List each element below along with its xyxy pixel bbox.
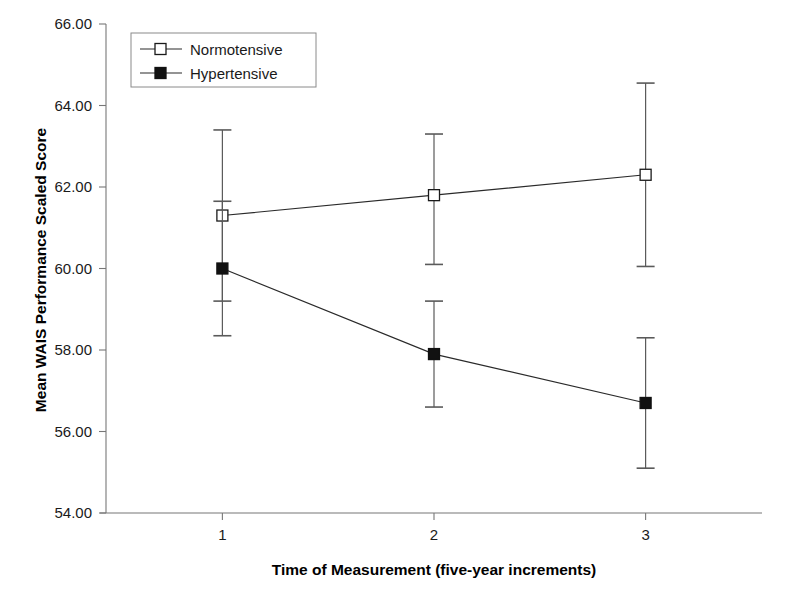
data-point-marker[interactable] [640, 169, 651, 180]
y-tick-label: 54.00 [54, 504, 92, 521]
data-point-marker[interactable] [429, 349, 440, 360]
x-axis-title: Time of Measurement (five-year increment… [272, 561, 596, 578]
y-tick-label: 64.00 [54, 97, 92, 114]
data-point-marker[interactable] [217, 263, 228, 274]
data-point-marker[interactable] [640, 397, 651, 408]
y-tick-label: 60.00 [54, 260, 92, 277]
x-tick-label: 2 [430, 526, 438, 543]
legend-label-normotensive: Normotensive [190, 41, 283, 58]
legend-label-hypertensive: Hypertensive [190, 65, 278, 82]
y-tick-label: 62.00 [54, 178, 92, 195]
data-point-marker[interactable] [429, 190, 440, 201]
legend: Normotensive Hypertensive [131, 33, 316, 87]
y-tick-label: 56.00 [54, 423, 92, 440]
chart-background [0, 0, 788, 598]
open-square-icon [155, 44, 166, 55]
y-axis-title: Mean WAIS Performance Scaled Score [32, 127, 49, 412]
chart-container: 66.0064.0062.0060.0058.0056.0054.00 123 … [0, 0, 788, 598]
x-tick-label: 1 [218, 526, 226, 543]
filled-square-icon [155, 68, 166, 79]
y-tick-label: 58.00 [54, 341, 92, 358]
chart-svg: 66.0064.0062.0060.0058.0056.0054.00 123 … [0, 0, 788, 598]
x-tick-label: 3 [641, 526, 649, 543]
y-tick-label: 66.00 [54, 15, 92, 32]
